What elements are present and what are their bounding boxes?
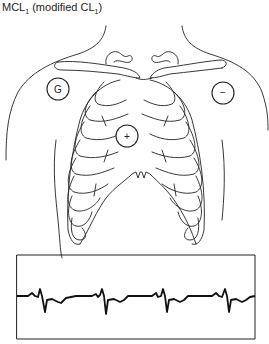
rib-hook-right (152, 52, 178, 64)
clavicle-left (55, 61, 140, 78)
electrode-negative: − (212, 82, 234, 104)
chest-diagram: G − + (0, 0, 269, 344)
torso-left-side (54, 140, 62, 258)
electrode-positive: + (116, 125, 138, 147)
torso-right-side (222, 140, 224, 220)
electrode-positive-label: + (124, 131, 130, 142)
lower-costal-left (80, 204, 102, 244)
electrode-ground: G (47, 78, 69, 100)
ecg-waveform (17, 289, 255, 314)
ribcage-left (68, 80, 128, 244)
electrode-ground-label: G (54, 84, 62, 95)
electrode-negative-label: − (220, 87, 226, 98)
ribcage-right (142, 80, 204, 244)
costal-margin (102, 172, 178, 206)
rib-hook-left (106, 52, 132, 64)
body-outline-right (182, 26, 268, 130)
clavicle-right (150, 60, 226, 78)
